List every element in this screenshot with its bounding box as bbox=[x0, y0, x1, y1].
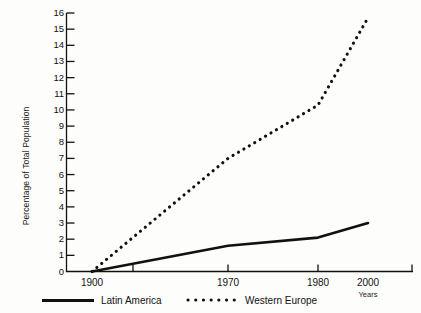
legend-item[interactable]: Western Europe bbox=[186, 293, 317, 307]
x-tick-label: 1900 bbox=[81, 277, 103, 288]
chart-legend: Latin AmericaWestern Europe bbox=[0, 291, 421, 313]
legend-item[interactable]: Latin America bbox=[42, 293, 162, 307]
x-tick-label: 1980 bbox=[307, 277, 329, 288]
chart-figure: Percentage of Total Population 012345678… bbox=[0, 0, 421, 313]
x-tick-label: 1970 bbox=[217, 277, 239, 288]
legend-item-label: Latin America bbox=[101, 295, 162, 306]
x-tick-label: 2000 bbox=[357, 277, 379, 288]
legend-item-label: Western Europe bbox=[245, 295, 317, 306]
legend-swatch-dotted-line bbox=[186, 298, 238, 302]
legend-swatch-solid-line bbox=[42, 299, 94, 302]
x-axis-tick-labels: 1900197019802000 bbox=[0, 0, 421, 313]
